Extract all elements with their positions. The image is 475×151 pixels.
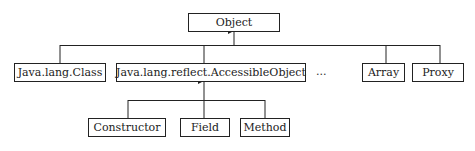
node-array: Array xyxy=(362,63,405,82)
node-proxy: Proxy xyxy=(412,63,464,82)
ellipsis: ... xyxy=(316,65,327,78)
node-accessible-object: Java.lang.reflect.AccessibleObject xyxy=(116,63,306,82)
node-object: Object xyxy=(188,13,280,32)
node-constructor: Constructor xyxy=(88,118,166,137)
node-java-lang-class: Java.lang.Class xyxy=(14,63,106,82)
node-field: Field xyxy=(180,118,230,137)
node-method: Method xyxy=(240,118,290,137)
